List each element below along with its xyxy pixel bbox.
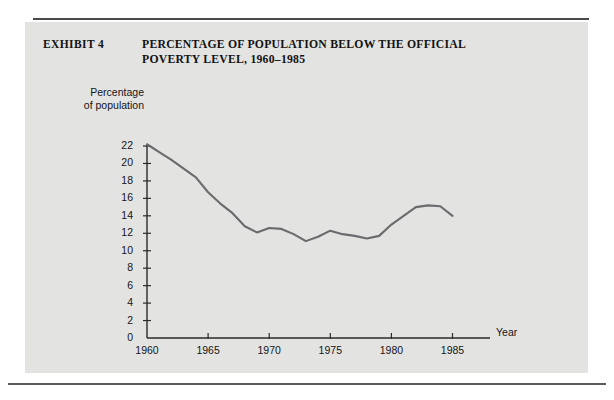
- axes-group: [143, 145, 490, 339]
- plot-canvas: [0, 0, 614, 400]
- data-series-group: [147, 144, 453, 241]
- poverty-line-chart: Percentage of population Year 0246810121…: [0, 0, 614, 400]
- data-line: [147, 144, 453, 241]
- exhibit-page: EXHIBIT 4 PERCENTAGE OF POPULATION BELOW…: [0, 0, 614, 400]
